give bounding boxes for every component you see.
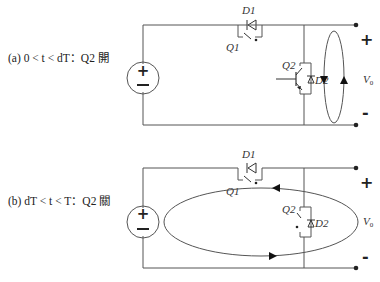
minus-label-b: -	[362, 247, 369, 266]
vo-label-b: V0	[363, 215, 374, 229]
current-loop-b	[164, 188, 358, 256]
arrow-right-icon	[269, 252, 277, 260]
svg-text:D1: D1	[241, 4, 255, 16]
terminal-minus-b	[354, 266, 359, 271]
arrow-up-icon	[340, 76, 348, 84]
svg-text:Q1: Q1	[226, 185, 239, 197]
plus-label-b: +	[360, 173, 373, 192]
voltage-source-b: +	[127, 205, 159, 238]
terminal-plus-a	[354, 23, 359, 28]
plus-label-a: +	[360, 30, 373, 49]
svg-text:+: +	[137, 205, 150, 223]
terminal-minus-a	[354, 123, 359, 128]
switch-q2-diode-d2-b: Q2 D2	[282, 203, 329, 237]
switch-q1-diode-d1-a: D1 Q1	[226, 4, 262, 53]
svg-text:+: +	[137, 62, 150, 80]
circuit-diagram: + D1 Q1 Q2 D2	[0, 0, 380, 282]
voltage-source-a: +	[127, 62, 159, 94]
panel-b: + D1 Q1 Q2 D2 + - V0	[127, 148, 374, 270]
vo-label-a: V0	[363, 73, 374, 87]
arrow-left-icon	[272, 184, 280, 192]
svg-text:D2: D2	[314, 74, 329, 86]
panel-a: + D1 Q1 Q2 D2	[127, 4, 374, 127]
minus-label-a: -	[362, 103, 369, 122]
terminal-plus-b	[354, 166, 359, 171]
svg-text:Q2: Q2	[282, 203, 296, 215]
svg-text:Q2: Q2	[282, 59, 296, 71]
svg-text:Q1: Q1	[226, 41, 239, 53]
svg-text:D1: D1	[241, 148, 255, 160]
svg-text:D2: D2	[314, 217, 329, 229]
